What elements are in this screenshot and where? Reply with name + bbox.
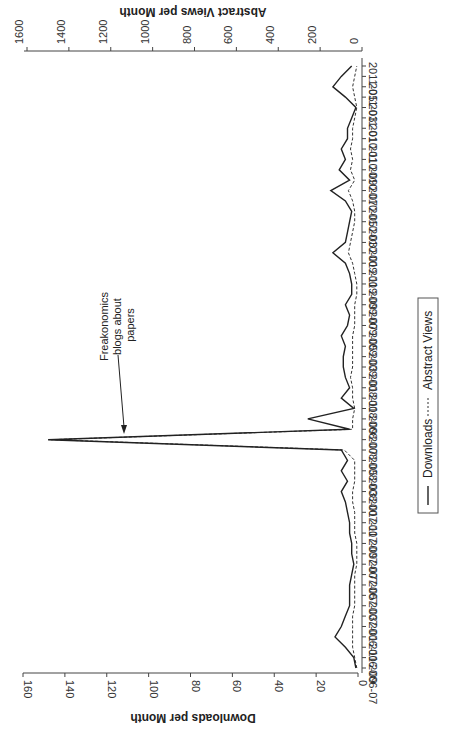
- downloads-tick-label: 160: [22, 680, 34, 698]
- date-tick-label: 2011-05: [367, 62, 379, 102]
- annotation-line-2: blogs about: [111, 298, 123, 355]
- downloads-axis: 020406080100120140160: [22, 673, 369, 698]
- views-tick-label: 1600: [13, 20, 25, 44]
- legend-downloads-label: Downloads: [421, 419, 435, 478]
- annotation-freakonomics: Freakonomics blogs about papers: [98, 289, 136, 434]
- views-tick-label: 1400: [55, 20, 67, 44]
- downloads-tick-label: 20: [315, 680, 327, 692]
- annotation-arrow: [118, 355, 124, 427]
- abstract-views-axis-title: Abstract Views per Month: [119, 5, 266, 19]
- legend-views-label: Abstract Views: [421, 311, 435, 390]
- views-tick-label: 600: [222, 26, 234, 44]
- views-tick-label: 200: [306, 26, 318, 44]
- downloads-tick-label: 60: [231, 680, 243, 692]
- views-tick-label: 800: [181, 26, 193, 44]
- downloads-axis-title: Downloads per Month: [130, 711, 255, 725]
- views-tick-label: 1000: [139, 20, 151, 44]
- date-axis: 2006-072006-092006-112007-012007-032007-…: [362, 58, 379, 704]
- svg-text:Freakonomics blogs about: Freakonomics blogs about papers: [98, 289, 136, 361]
- downloads-tick-label: 140: [64, 680, 76, 698]
- views-tick-label: 400: [264, 26, 276, 44]
- downloads-tick-label: 80: [190, 680, 202, 692]
- views-tick-label: 0: [348, 38, 360, 44]
- rotated-line-chart: 02004006008001000120014001600 Abstract V…: [0, 0, 453, 735]
- legend: Downloads Abstract Views: [418, 298, 438, 513]
- downloads-tick-label: 40: [273, 680, 285, 692]
- downloads-tick-label: 100: [148, 680, 160, 698]
- abstract-views-line: [51, 66, 357, 668]
- views-tick-label: 1200: [97, 20, 109, 44]
- downloads-tick-label: 120: [106, 680, 118, 698]
- arrowhead-icon: [121, 425, 127, 434]
- abstract-views-axis: 02004006008001000120014001600: [13, 20, 362, 51]
- annotation-line-1: Freakonomics: [98, 291, 110, 361]
- annotation-line-3: papers: [124, 308, 136, 342]
- downloads-line: [48, 66, 356, 668]
